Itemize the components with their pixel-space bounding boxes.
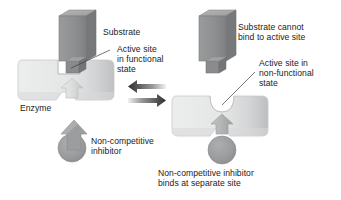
label-active-site-left-line2: in functional <box>117 54 164 64</box>
substrate-front-face-left <box>59 16 86 61</box>
label-active-site-left-line1: Active site <box>117 44 157 54</box>
label-substrate-left: Substrate <box>103 27 140 37</box>
label-substrate-right-line2: bind to active site <box>238 32 305 42</box>
inhibitor-left-group <box>58 120 87 162</box>
reversible-arrows <box>128 80 166 107</box>
enzyme-inhibition-diagram: Substrate Active site in functional stat… <box>0 0 341 200</box>
label-active-site-right-line2: non-functional <box>259 68 314 78</box>
label-inhibitor-right-line2: binds at separate site <box>158 178 241 188</box>
substrate-stem-right <box>206 61 219 73</box>
substrate-block-right <box>199 10 236 73</box>
substrate-side-face-right <box>226 10 236 61</box>
arrow-left-pointing <box>128 80 166 93</box>
label-enzyme: Enzyme <box>20 103 51 113</box>
label-inhibitor-left-line1: Non-competitive <box>91 136 154 146</box>
label-active-site-left-line3: state <box>117 64 136 74</box>
label-inhibitor-left-line2: inhibitor <box>91 146 122 156</box>
label-active-site-right-line1: Active site in <box>259 58 308 68</box>
inhibitor-right-group <box>208 136 236 164</box>
substrate-side-face-left <box>86 10 96 61</box>
label-inhibitor-right-line1: Non-competitive inhibitor <box>158 168 254 178</box>
inhibitor-body-right <box>208 136 236 164</box>
label-active-site-right-line3: state <box>259 78 278 88</box>
label-substrate-right-line1: Substrate cannot <box>238 22 304 32</box>
substrate-front-face-right <box>199 16 226 61</box>
arrow-right-pointing <box>128 94 166 107</box>
